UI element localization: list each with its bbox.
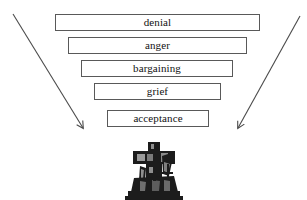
stage-label-anger: anger [145,40,170,51]
crucifix-monument-photo [120,142,188,200]
grief-stages-diagram: denial anger bargaining grief acceptance [0,0,307,200]
stage-label-grief: grief [147,86,168,97]
left-converging-arrow [13,14,83,128]
stage-box-grief: grief [94,83,221,100]
stage-label-denial: denial [144,17,171,28]
right-converging-arrow [238,16,300,128]
stage-box-bargaining: bargaining [81,60,233,77]
stage-label-acceptance: acceptance [133,113,182,124]
stage-box-anger: anger [68,37,247,54]
stage-box-denial: denial [55,14,260,31]
stage-label-bargaining: bargaining [133,63,181,74]
stage-box-acceptance: acceptance [107,110,209,127]
